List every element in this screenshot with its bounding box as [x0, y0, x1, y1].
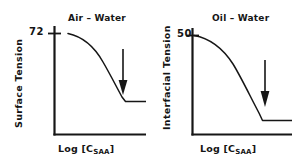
- y-tick-label-oil-water: 50: [177, 28, 192, 39]
- x-axis-label-oil-water: Log [CSAA]: [200, 143, 256, 156]
- panel-title-air-water: Air – Water: [68, 13, 126, 23]
- x-axis-label-main: Log [C: [200, 143, 235, 154]
- x-axis-label-subscript: SAA: [235, 148, 251, 156]
- y-axis-label-oil-water: Interfacial Tension: [161, 25, 172, 130]
- figure-root: Air – Water 72 Surface Tension Log [CSAA…: [0, 0, 292, 164]
- interfacial-tension-curve: [194, 36, 292, 121]
- x-axis-label-bracket: ]: [110, 143, 114, 154]
- x-axis-label-bracket: ]: [252, 143, 256, 154]
- y-tick-label-air-water: 72: [29, 26, 44, 37]
- cmc-arrow-icon: [119, 49, 128, 95]
- panel-title-oil-water: Oil – Water: [212, 13, 269, 23]
- y-axis-label-air-water: Surface Tension: [13, 39, 24, 128]
- surface-tension-curve: [68, 34, 146, 102]
- chart-panel-air-water: Air – Water 72 Surface Tension Log [CSAA…: [0, 0, 146, 164]
- x-axis-label-air-water: Log [CSAA]: [58, 143, 114, 156]
- cmc-arrow-icon: [261, 60, 270, 107]
- chart-panel-oil-water: Oil – Water 50 Interfacial Tension Log […: [146, 0, 292, 164]
- x-axis-label-subscript: SAA: [93, 148, 109, 156]
- x-axis-label-main: Log [C: [58, 143, 93, 154]
